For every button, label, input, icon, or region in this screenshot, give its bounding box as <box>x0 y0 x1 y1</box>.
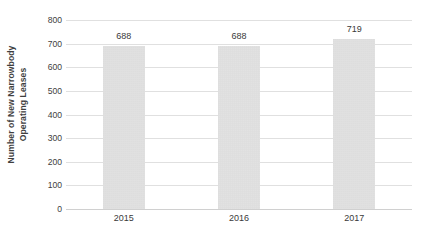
gridline <box>66 209 412 210</box>
y-axis-tick-label: 300 <box>0 133 62 143</box>
bar <box>103 46 145 209</box>
y-axis-tick-label: 200 <box>0 157 62 167</box>
x-axis-tick-label: 2015 <box>94 212 154 224</box>
bar <box>333 39 375 209</box>
y-axis-tick-label: 100 <box>0 180 62 190</box>
bar-value-label: 719 <box>329 24 379 35</box>
y-axis-tick-labels: 8007006005004003002001000 <box>0 0 62 233</box>
gridline <box>66 20 412 21</box>
y-axis-tick-label: 800 <box>0 15 62 25</box>
x-axis-tick-label: 2017 <box>324 212 384 224</box>
plot-area: 688688719 <box>66 20 412 209</box>
y-axis-tick-label: 400 <box>0 110 62 120</box>
y-axis-tick-label: 700 <box>0 39 62 49</box>
x-axis-tick-label: 2016 <box>209 212 269 224</box>
bar <box>218 46 260 209</box>
y-axis-tick-label: 500 <box>0 86 62 96</box>
x-axis-tick-labels: 201520162017 <box>66 212 412 232</box>
bar-value-label: 688 <box>99 31 149 42</box>
bar-chart: Number of New Narrowbody Operating Lease… <box>0 0 425 233</box>
y-axis-tick-label: 600 <box>0 62 62 72</box>
y-axis-tick-label: 0 <box>0 204 62 214</box>
bar-value-label: 688 <box>214 31 264 42</box>
